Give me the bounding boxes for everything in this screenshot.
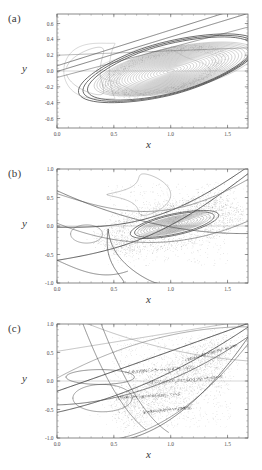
svg-text:1.0: 1.0 — [47, 321, 54, 327]
svg-text:0.5: 0.5 — [47, 350, 54, 356]
panel-b-plot: 0.00.51.01.51.00.50.0-0.5-1.0 — [0, 155, 262, 310]
svg-text:0.5: 0.5 — [110, 286, 117, 292]
svg-text:0.5: 0.5 — [110, 441, 117, 447]
svg-text:1.0: 1.0 — [47, 166, 54, 172]
svg-text:1.0: 1.0 — [167, 131, 174, 137]
svg-text:1.0: 1.0 — [167, 441, 174, 447]
svg-text:-1.0: -1.0 — [45, 435, 54, 441]
svg-text:0.4: 0.4 — [47, 36, 54, 42]
svg-text:-0.5: -0.5 — [45, 252, 54, 258]
svg-text:0.5: 0.5 — [110, 131, 117, 137]
panel-c: (c) y x 0.00.51.01.51.00.50.0-0.5-1.0 — [0, 310, 262, 465]
svg-text:0.0: 0.0 — [54, 131, 61, 137]
panel-a: (a) y x 0.00.51.01.50.60.40.20.0-0.2-0.4… — [0, 0, 262, 155]
svg-text:0.0: 0.0 — [47, 223, 54, 229]
panel-a-plot: 0.00.51.01.50.60.40.20.0-0.2-0.4-0.6 — [0, 0, 262, 155]
svg-text:0.0: 0.0 — [47, 68, 54, 74]
svg-text:0.2: 0.2 — [47, 52, 54, 58]
svg-text:-0.5: -0.5 — [45, 407, 54, 413]
svg-text:0.5: 0.5 — [47, 195, 54, 201]
svg-text:0.0: 0.0 — [54, 286, 61, 292]
svg-text:0.0: 0.0 — [54, 441, 61, 447]
svg-text:0.6: 0.6 — [47, 21, 54, 27]
svg-text:-1.0: -1.0 — [45, 280, 54, 286]
svg-text:-0.4: -0.4 — [45, 100, 54, 106]
panel-c-plot: 0.00.51.01.51.00.50.0-0.5-1.0 — [0, 310, 262, 465]
svg-text:-0.2: -0.2 — [45, 84, 54, 90]
svg-text:0.0: 0.0 — [47, 378, 54, 384]
svg-text:1.5: 1.5 — [224, 131, 231, 137]
svg-text:1.5: 1.5 — [224, 286, 231, 292]
svg-text:1.0: 1.0 — [167, 286, 174, 292]
panel-b: (b) y x 0.00.51.01.51.00.50.0-0.5-1.0 — [0, 155, 262, 310]
svg-text:1.5: 1.5 — [224, 441, 231, 447]
svg-text:-0.6: -0.6 — [45, 116, 54, 122]
figure-three-panel-poincare-sections: (a) y x 0.00.51.01.50.60.40.20.0-0.2-0.4… — [0, 0, 262, 470]
